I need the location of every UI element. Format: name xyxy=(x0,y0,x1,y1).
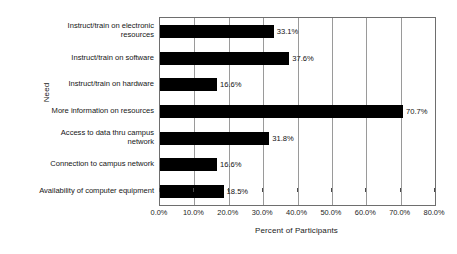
x-axis-tick xyxy=(400,188,401,192)
x-axis-tick xyxy=(228,188,229,192)
category-label: Instruct/train on hardware xyxy=(34,79,154,88)
x-axis-tick xyxy=(331,188,332,192)
bar-chart: Need Instruct/train on electronic resour… xyxy=(0,0,457,254)
x-axis-tick xyxy=(365,188,366,192)
bar-value-label: 70.7% xyxy=(406,105,428,118)
category-label: More information on resources xyxy=(34,106,154,115)
bar-value-label: 37.6% xyxy=(292,52,314,65)
x-axis-tick xyxy=(297,188,298,192)
x-axis-title: Percent of Participants xyxy=(159,226,434,235)
category-label: Access to data thru campus network xyxy=(34,128,154,147)
category-label: Instruct/train on software xyxy=(34,53,154,62)
x-axis-tick xyxy=(159,188,160,192)
bar xyxy=(160,132,269,145)
x-axis-tick-label: 80.0% xyxy=(413,208,455,217)
bar-value-label: 33.1% xyxy=(277,25,299,38)
bar xyxy=(160,25,274,38)
bar xyxy=(160,158,217,171)
bar xyxy=(160,105,403,118)
category-label-list: Instruct/train on electronic resourcesIn… xyxy=(34,17,157,204)
x-axis-tick xyxy=(262,188,263,192)
bar xyxy=(160,185,224,198)
bar-value-label: 18.5% xyxy=(227,185,249,198)
x-axis-tick xyxy=(434,188,435,192)
x-axis-tick xyxy=(193,188,194,192)
category-label: Availability of computer equipment xyxy=(34,186,154,195)
category-label: Connection to campus network xyxy=(34,159,154,168)
bar-value-label: 16.6% xyxy=(220,158,242,171)
bar-value-label: 31.8% xyxy=(272,132,294,145)
plot-area: 33.1%37.6%16.6%70.7%31.8%16.6%18.5% xyxy=(159,17,436,206)
category-label: Instruct/train on electronic resources xyxy=(34,21,154,40)
bar-value-label: 16.6% xyxy=(220,78,242,91)
bar xyxy=(160,52,289,65)
bar xyxy=(160,78,217,91)
